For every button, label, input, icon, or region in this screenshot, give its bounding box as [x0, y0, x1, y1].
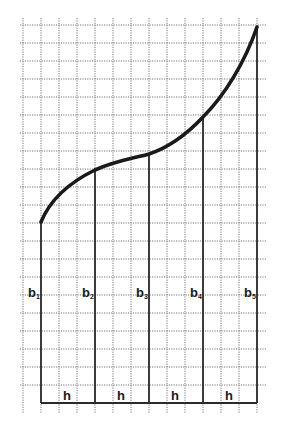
interval-labels: hhhh	[63, 388, 233, 403]
ordinate-label: b2	[82, 285, 94, 300]
diagram-canvas: b1b2b3b4b5 hhhh	[0, 0, 281, 433]
interval-label: h	[171, 388, 179, 403]
ordinate-label: b5	[244, 285, 256, 300]
ordinate-labels: b1b2b3b4b5	[28, 285, 256, 300]
ordinate-label: b1	[28, 285, 40, 300]
interval-label: h	[225, 388, 233, 403]
grid-lines	[20, 18, 267, 413]
interval-label: h	[117, 388, 125, 403]
interval-label: h	[63, 388, 71, 403]
ordinate-label: b3	[136, 285, 148, 300]
ordinate-label: b4	[190, 285, 202, 300]
